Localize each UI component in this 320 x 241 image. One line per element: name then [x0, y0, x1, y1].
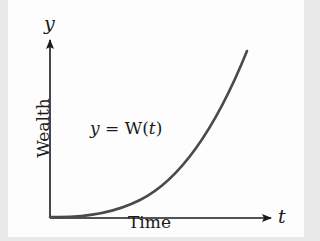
eq-lhs: y — [90, 118, 100, 138]
eq-close: ) — [156, 118, 163, 138]
y-axis-label: Wealth — [33, 93, 53, 163]
eq-func: W( — [125, 118, 149, 138]
y-axis-variable: y — [44, 12, 55, 34]
eq-arg: t — [149, 118, 156, 138]
x-axis-variable: t — [278, 205, 286, 227]
x-axis-label: Time — [128, 212, 171, 232]
eq-equals: = — [100, 118, 125, 138]
curve-equation: y = W(t) — [90, 118, 162, 138]
